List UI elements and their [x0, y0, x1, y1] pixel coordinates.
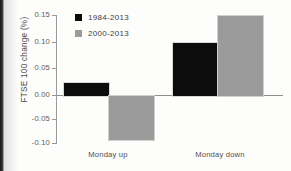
legend-label: 1984-2013	[88, 13, 129, 22]
legend-item: 2000-2013	[75, 27, 129, 39]
category-label-monday-up: Monday up	[62, 150, 154, 159]
legend-swatch-icon	[75, 30, 82, 37]
bar-monday-down-1984-2013	[172, 42, 219, 97]
bar-monday-down-2000-2013	[217, 15, 264, 97]
y-axis-spine	[56, 15, 57, 143]
y-tick-label: 0.15	[16, 10, 50, 19]
chart-figure: FTSE 100 change (%) 0.15 0.10 0.05 0.00 …	[0, 0, 291, 171]
legend-swatch-icon	[75, 14, 82, 21]
y-tick-label: -0.05	[16, 114, 50, 123]
category-label-monday-down: Monday down	[170, 150, 270, 159]
y-tick-mark	[52, 143, 57, 144]
y-tick-label: 0.00	[16, 90, 50, 99]
y-tick-mark	[52, 42, 57, 43]
y-tick-mark	[52, 119, 57, 120]
y-tick-mark	[52, 15, 57, 16]
scan-edge-artifact	[0, 0, 4, 171]
y-tick-mark	[52, 68, 57, 69]
legend-label: 2000-2013	[88, 29, 129, 38]
chart-legend: 1984-2013 2000-2013	[75, 11, 129, 43]
y-tick-label: 0.10	[16, 37, 50, 46]
legend-item: 1984-2013	[75, 11, 129, 23]
y-tick-label: -0.10	[16, 138, 50, 147]
bar-monday-up-2000-2013	[108, 95, 155, 141]
y-tick-mark	[52, 95, 57, 96]
y-tick-label: 0.05	[16, 63, 50, 72]
bar-monday-up-1984-2013	[63, 82, 110, 97]
